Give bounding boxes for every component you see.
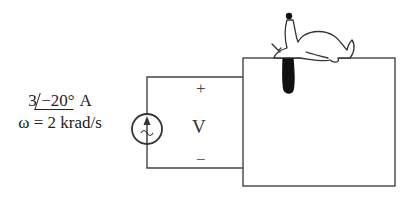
minus-terminal-label: − (196, 150, 206, 170)
source-unit: A (79, 91, 91, 110)
top-wire (147, 77, 243, 114)
plus-terminal-label: + (196, 79, 206, 99)
dog-ear (283, 59, 294, 93)
source-angle: −20° (41, 93, 74, 109)
dog-illustration (272, 13, 354, 93)
load-box (243, 58, 395, 186)
bottom-wire (147, 144, 243, 168)
angle-symbol: −20° (34, 93, 79, 110)
source-frequency-label: ω = 2 krad/s (0, 113, 120, 133)
source-phasor-label: 3−20° A (0, 91, 120, 111)
voltage-label: V (192, 116, 206, 138)
ac-current-source-icon (132, 114, 162, 144)
